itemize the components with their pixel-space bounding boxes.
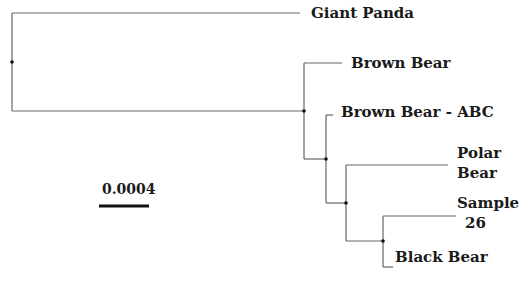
taxon-label-polar-bear-line1: Polar <box>457 143 501 163</box>
node-d-dot <box>381 239 385 243</box>
taxon-label-giant-panda: Giant Panda <box>311 3 414 23</box>
taxon-label-brown-bear: Brown Bear <box>351 53 450 73</box>
node-a-dot <box>302 109 306 113</box>
scale-bar-label: 0.0004 <box>102 181 156 197</box>
taxon-label-polar-bear-line2: Bear <box>457 163 497 183</box>
node-c-dot <box>344 201 348 205</box>
taxon-label-brown-bear-abc: Brown Bear - ABC <box>341 102 494 122</box>
taxon-label-sample-26-line1: Sample <box>457 193 519 213</box>
taxon-label-black-bear: Black Bear <box>395 247 488 267</box>
taxon-label-sample-26-line2: 26 <box>465 213 486 233</box>
root-node-dot <box>10 60 14 64</box>
node-b-dot <box>324 157 328 161</box>
